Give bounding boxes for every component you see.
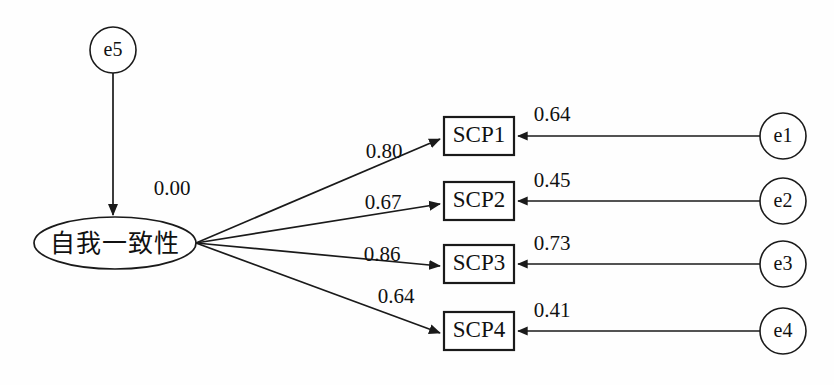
coefficient-error-scp2: 0.45 (534, 168, 571, 192)
node-e5-label: e5 (104, 38, 123, 60)
coefficient-error-scp1: 0.64 (534, 102, 571, 126)
node-e1-label: e1 (774, 124, 793, 146)
node-scp3-label: SCP3 (453, 250, 505, 275)
coefficient-error-scp3: 0.73 (534, 231, 571, 255)
coefficient-loading-scp3: 0.86 (364, 242, 401, 266)
edge-latent-to-scp1 (196, 139, 440, 243)
coefficient-loading-scp2: 0.67 (365, 190, 402, 214)
sem-path-diagram: e5 0.00 自我一致性 0.80 0.67 0.86 0.64 SCP1 S… (0, 0, 834, 385)
coefficient-disturbance-value: 0.00 (154, 176, 191, 200)
node-scp2-label: SCP2 (453, 187, 505, 212)
edge-latent-to-scp2 (196, 204, 440, 243)
coefficient-loading-scp4: 0.64 (378, 284, 415, 308)
node-e4-label: e4 (774, 319, 793, 341)
node-e2-label: e2 (774, 189, 793, 211)
node-scp4-label: SCP4 (453, 317, 506, 342)
edge-latent-to-scp3 (196, 243, 440, 266)
node-e3-label: e3 (774, 252, 793, 274)
coefficient-loading-scp1: 0.80 (366, 139, 403, 163)
coefficient-error-scp4: 0.41 (534, 298, 571, 322)
diagram-canvas: e5 0.00 自我一致性 0.80 0.67 0.86 0.64 SCP1 S… (0, 0, 834, 385)
node-latent-label: 自我一致性 (50, 229, 180, 258)
node-scp1-label: SCP1 (453, 122, 505, 147)
